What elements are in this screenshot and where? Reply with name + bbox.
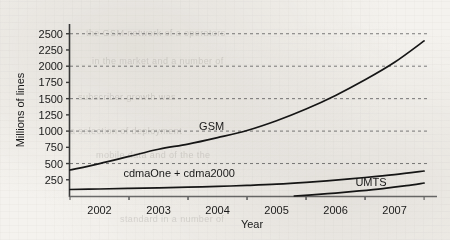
y-tick-label: 1250 (39, 109, 63, 121)
chart-figure: the GSM network of a operators in the ma… (0, 0, 450, 240)
series-line-gsm (70, 41, 424, 170)
series-label-cdmaone-cdma2000: cdmaOne + cdma2000 (123, 167, 235, 179)
series-label-text: cdmaOne + cdma2000 (123, 167, 235, 179)
x-tick-label: 2003 (146, 204, 170, 216)
y-tick-label: 1750 (39, 76, 63, 88)
series-label-text: GSM (199, 120, 224, 132)
grid-lines (70, 34, 430, 164)
series-label-umts: UMTS (355, 176, 386, 188)
y-tick-label: 2000 (39, 60, 63, 72)
x-tick-label: 2004 (205, 204, 229, 216)
x-tick-label: 2005 (264, 204, 288, 216)
x-tick-label: 2002 (87, 204, 111, 216)
y-tick-label: 2500 (39, 28, 63, 40)
x-tick-label: 2007 (382, 204, 406, 216)
y-axis-ticks: 2505007501000125015001750200022502500 (39, 28, 70, 186)
y-tick-label: 250 (45, 174, 63, 186)
series-label-text: UMTS (355, 176, 386, 188)
series-inline-labels: GSMcdmaOne + cdma2000UMTS (123, 120, 386, 188)
y-tick-label: 2250 (39, 44, 63, 56)
y-tick-label: 1500 (39, 93, 63, 105)
y-tick-label: 500 (45, 158, 63, 170)
y-tick-label: 1000 (39, 125, 63, 137)
y-tick-label: 750 (45, 141, 63, 153)
y-axis-title: Millions of lines (14, 72, 26, 147)
series-label-gsm: GSM (199, 120, 224, 132)
x-tick-label: 2006 (323, 204, 347, 216)
x-axis-ticks: 200220032004200520062007 (70, 196, 424, 216)
chart-svg: 2505007501000125015001750200022502500 20… (0, 0, 450, 240)
x-axis-title: Year (241, 218, 264, 230)
